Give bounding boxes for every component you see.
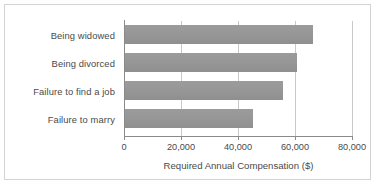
x-tick-label-1: 20,000 <box>167 142 195 152</box>
bar-failure-to-marry <box>125 109 253 128</box>
category-label-3: Failure to marry <box>0 114 115 125</box>
bar-being-widowed <box>125 25 313 44</box>
x-tick-3 <box>295 136 296 140</box>
x-tick-1 <box>181 136 182 140</box>
gridline-80000 <box>352 21 353 136</box>
x-tick-label-3: 60,000 <box>281 142 309 152</box>
bar-chart-plot: Being widowed Being divorced Failure to … <box>0 0 383 192</box>
category-label-2: Failure to find a job <box>0 86 115 97</box>
x-tick-label-4: 80,000 <box>338 142 366 152</box>
x-axis-title: Required Annual Compensation ($) <box>124 160 353 171</box>
y-axis-line <box>124 20 125 137</box>
category-label-1: Being divorced <box>0 58 115 69</box>
x-tick-label-2: 40,000 <box>224 142 252 152</box>
x-tick-2 <box>238 136 239 140</box>
x-tick-0 <box>124 136 125 140</box>
category-label-0: Being widowed <box>0 30 115 41</box>
x-tick-4 <box>352 136 353 140</box>
x-tick-label-0: 0 <box>121 142 126 152</box>
bar-failure-to-find-a-job <box>125 81 283 100</box>
bar-being-divorced <box>125 53 297 72</box>
